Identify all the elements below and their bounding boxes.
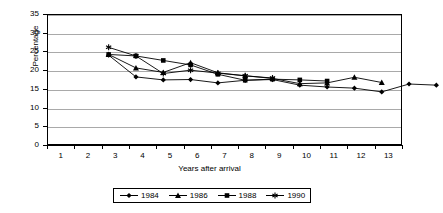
data-point-diamond bbox=[406, 81, 411, 86]
x-axis-tick bbox=[156, 145, 157, 149]
legend-label: 1988 bbox=[239, 192, 257, 200]
data-point-triangle bbox=[133, 65, 139, 71]
legend-entry-1986: 1986 bbox=[168, 191, 208, 200]
legend-label: 1990 bbox=[287, 192, 305, 200]
data-point-square bbox=[161, 58, 166, 63]
data-point-square bbox=[224, 193, 229, 198]
x-axis-tick-label: 6 bbox=[187, 152, 207, 160]
x-axis-tick bbox=[293, 145, 294, 149]
chart-legend: 1984198619881990 bbox=[113, 188, 311, 203]
legend-marker-triangle-icon bbox=[168, 191, 188, 200]
data-point-square bbox=[106, 52, 111, 57]
legend-entry-1990: 1990 bbox=[265, 191, 305, 200]
y-axis-tick-label: 10 bbox=[17, 104, 39, 112]
x-axis-tick-label: 4 bbox=[133, 152, 153, 160]
y-axis-tick-label: 0 bbox=[17, 141, 39, 149]
data-point-diamond bbox=[379, 89, 384, 94]
x-axis-tick bbox=[238, 145, 239, 149]
series-layer bbox=[95, 29, 443, 160]
data-point-diamond bbox=[161, 77, 166, 82]
x-axis-tick bbox=[47, 145, 48, 149]
series-1988 bbox=[106, 52, 329, 83]
x-axis-tick-label: 11 bbox=[324, 152, 344, 160]
legend-marker-diamond-icon bbox=[119, 191, 139, 200]
data-point-diamond bbox=[215, 80, 220, 85]
plot-area bbox=[47, 14, 402, 145]
legend-marker-asterisk-icon bbox=[265, 191, 285, 200]
data-point-diamond bbox=[352, 86, 357, 91]
data-point-asterisk bbox=[106, 44, 111, 50]
legend-entry-1988: 1988 bbox=[217, 191, 257, 200]
x-axis-tick bbox=[402, 145, 403, 149]
x-axis-tick-label: 8 bbox=[242, 152, 262, 160]
legend-label: 1986 bbox=[190, 192, 208, 200]
y-axis-tick-label: 25 bbox=[17, 47, 39, 55]
x-axis-tick-label: 2 bbox=[78, 152, 98, 160]
legend-label: 1984 bbox=[141, 192, 159, 200]
x-axis-tick bbox=[211, 145, 212, 149]
data-point-diamond bbox=[434, 83, 439, 88]
x-axis-tick bbox=[129, 145, 130, 149]
x-axis-title: Years after arrival bbox=[0, 165, 419, 173]
data-point-square bbox=[188, 63, 193, 68]
data-point-triangle bbox=[351, 74, 357, 80]
series-line bbox=[109, 54, 327, 81]
legend-marker-square-icon bbox=[217, 191, 237, 200]
x-axis-tick-label: 5 bbox=[160, 152, 180, 160]
x-axis-tick-label: 3 bbox=[105, 152, 125, 160]
x-axis-tick bbox=[265, 145, 266, 149]
y-axis-tick-label: 5 bbox=[17, 122, 39, 130]
data-point-diamond bbox=[188, 77, 193, 82]
x-axis-tick bbox=[375, 145, 376, 149]
x-axis-tick bbox=[74, 145, 75, 149]
gridline bbox=[48, 15, 401, 16]
x-axis-tick-label: 7 bbox=[215, 152, 235, 160]
x-axis-tick-label: 1 bbox=[51, 152, 71, 160]
x-axis-tick bbox=[320, 145, 321, 149]
y-axis-tick-label: 35 bbox=[17, 10, 39, 18]
data-point-diamond bbox=[126, 193, 131, 198]
x-axis-tick bbox=[102, 145, 103, 149]
x-axis-tick-label: 9 bbox=[269, 152, 289, 160]
x-axis-tick-label: 10 bbox=[296, 152, 316, 160]
x-axis-tick bbox=[347, 145, 348, 149]
y-axis-tick-label: 15 bbox=[17, 85, 39, 93]
x-axis-line bbox=[47, 145, 402, 146]
x-axis-tick bbox=[184, 145, 185, 149]
data-point-square bbox=[298, 78, 303, 83]
series-line bbox=[109, 55, 437, 92]
y-axis-tick-label: 30 bbox=[17, 29, 39, 37]
x-axis-tick-label: 13 bbox=[378, 152, 398, 160]
legend-entry-1984: 1984 bbox=[119, 191, 159, 200]
x-axis-tick-label: 12 bbox=[351, 152, 371, 160]
y-axis-tick-label: 20 bbox=[17, 66, 39, 74]
data-point-square bbox=[325, 79, 330, 84]
